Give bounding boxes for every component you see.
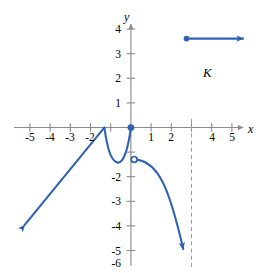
y-tick-label--5: -5 — [101, 245, 121, 257]
x-tick-label-2: 2 — [165, 131, 177, 143]
x-tick-label--3: -3 — [62, 131, 78, 143]
closed-point-marker — [127, 124, 134, 131]
graph-figure: -5 -4 -3 -2 1 2 4 5 4 3 2 1 -2 -3 -4 -5 … — [0, 0, 268, 273]
x-tick-label--2: -2 — [82, 131, 98, 143]
curve-label-k: K — [203, 65, 212, 81]
open-point-marker — [131, 157, 137, 163]
x-tick-label--4: -4 — [42, 131, 58, 143]
y-tick-label-4: 4 — [105, 23, 121, 35]
x-tick-label-1: 1 — [145, 131, 157, 143]
y-tick-label-3: 3 — [105, 48, 121, 60]
curve-branch-right-falling — [134, 159, 183, 249]
y-axis-label: y — [124, 10, 129, 25]
y-tick-label--6: -6 — [101, 257, 121, 269]
x-tick-label-5: 5 — [226, 131, 238, 143]
x-tick-label--5: -5 — [22, 131, 38, 143]
x-axis-label: x — [248, 122, 253, 137]
y-tick-label--3: -3 — [101, 195, 121, 207]
y-tick-label--2: -2 — [101, 171, 121, 183]
y-tick-label-2: 2 — [105, 72, 121, 84]
y-tick-label--4: -4 — [101, 220, 121, 232]
x-tick-label-4: 4 — [206, 131, 218, 143]
y-tick-label-1: 1 — [105, 97, 121, 109]
legend-ray-dot — [184, 36, 190, 42]
curve-branch-middle-dip — [104, 128, 131, 163]
legend-ray-group — [184, 36, 243, 42]
